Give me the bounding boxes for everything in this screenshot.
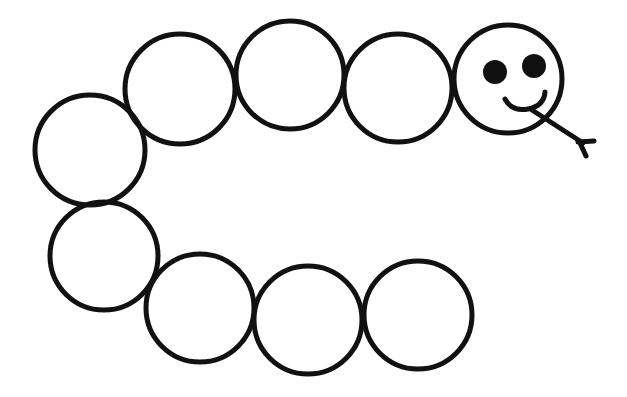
tongue <box>532 110 583 143</box>
smile-mouth <box>505 92 545 110</box>
body-segment <box>236 21 344 129</box>
body-segment <box>125 34 235 144</box>
tongue-fork <box>578 141 594 156</box>
caterpillar-drawing <box>0 0 627 397</box>
body-segment <box>344 34 452 142</box>
caterpillar-head <box>454 25 594 156</box>
body-segment <box>50 202 158 310</box>
right-eye-icon <box>522 54 546 78</box>
left-eye-icon <box>483 60 507 84</box>
body-segment <box>254 266 362 374</box>
body-segment <box>146 254 254 362</box>
body-segment <box>364 261 472 369</box>
caterpillar-body <box>35 21 472 374</box>
